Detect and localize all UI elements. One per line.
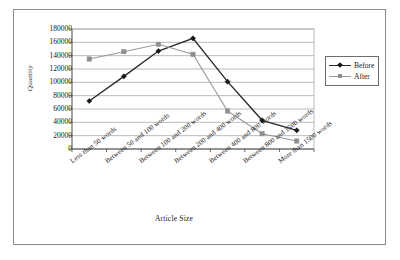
legend-label-before: Before bbox=[354, 61, 374, 70]
plot-stage: Quantity 1800001600001400001200001000008… bbox=[14, 10, 385, 244]
data-point bbox=[87, 57, 91, 61]
data-point bbox=[225, 109, 229, 113]
chart-canvas bbox=[14, 10, 385, 244]
series-line-after bbox=[89, 44, 296, 141]
data-point bbox=[122, 49, 126, 53]
data-point bbox=[191, 52, 195, 56]
legend-swatch-before bbox=[329, 61, 351, 70]
legend-label-after: After bbox=[354, 72, 370, 81]
legend-item-after[interactable]: After bbox=[329, 71, 374, 82]
data-point bbox=[260, 131, 264, 135]
square-marker-icon bbox=[338, 74, 342, 78]
data-point bbox=[295, 139, 299, 143]
x-axis-title: Article Size bbox=[74, 214, 274, 223]
chart-figure: Quantity 1800001600001400001200001000008… bbox=[13, 9, 386, 245]
legend-swatch-after bbox=[329, 72, 351, 81]
chart-legend: Before After bbox=[325, 56, 379, 86]
diamond-marker-icon bbox=[337, 62, 343, 68]
legend-item-before[interactable]: Before bbox=[329, 60, 374, 71]
series-layer bbox=[87, 36, 300, 143]
gridlines bbox=[72, 29, 314, 149]
data-point bbox=[294, 128, 299, 133]
data-point bbox=[156, 42, 160, 46]
